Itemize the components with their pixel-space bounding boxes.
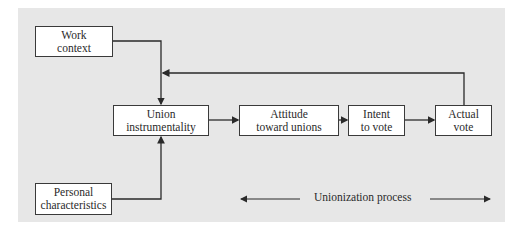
- node-label: Personal: [54, 186, 94, 199]
- node-label: Union: [147, 108, 176, 121]
- node-actual-vote: Actual vote: [435, 105, 492, 136]
- node-intent-to-vote: Intent to vote: [348, 105, 405, 136]
- node-label: toward unions: [256, 121, 321, 134]
- node-label: instrumentality: [126, 121, 196, 134]
- node-attitude-toward-unions: Attitude toward unions: [239, 105, 339, 136]
- node-label: Intent: [363, 108, 390, 121]
- node-union-instrumentality: Union instrumentality: [113, 105, 209, 136]
- node-label: to vote: [361, 121, 393, 134]
- node-personal-characteristics: Personal characteristics: [35, 183, 112, 215]
- node-label: Actual: [448, 108, 479, 121]
- node-label: Attitude: [270, 108, 308, 121]
- node-label: Work: [61, 29, 86, 42]
- node-label: vote: [454, 121, 474, 134]
- node-label: context: [57, 42, 91, 55]
- unionization-process-label: Unionization process: [310, 191, 415, 203]
- node-label: characteristics: [41, 199, 107, 212]
- node-work-context: Work context: [35, 26, 113, 57]
